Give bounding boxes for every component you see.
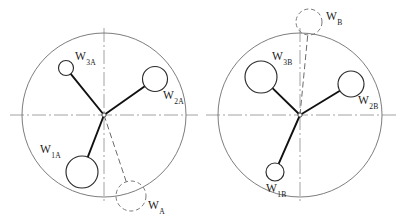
weight-label-2a: W2A xyxy=(163,89,184,104)
vector-arm-2b xyxy=(300,91,340,115)
weight-label-base: W xyxy=(75,50,86,62)
weight-label-3a: W3A xyxy=(75,50,96,65)
weight-label-subscript: B xyxy=(337,18,342,27)
resultant-arm-b xyxy=(300,35,308,115)
weight-label-subscript: A xyxy=(159,207,165,216)
weight-circle-2a xyxy=(143,67,168,92)
vector-arm-3a xyxy=(71,74,104,115)
weight-label-1b: W1B xyxy=(266,182,286,197)
diagram-geometry xyxy=(10,9,396,211)
vector-diagram-canvas xyxy=(0,0,404,224)
weight-label-subscript: 3B xyxy=(283,58,292,67)
weight-label-subscript: 2B xyxy=(369,102,378,111)
weight-label-subscript: 1A xyxy=(51,151,60,160)
weight-circle-1a xyxy=(66,156,98,188)
resultant-weight-circle-b xyxy=(296,9,322,35)
weight-circle-3b xyxy=(245,61,277,93)
weight-label-a: WA xyxy=(148,199,165,214)
hub-center-marker xyxy=(298,113,302,117)
weight-label-2b: W2B xyxy=(358,94,378,109)
weight-label-subscript: 2A xyxy=(174,97,183,106)
weight-label-subscript: 3A xyxy=(86,58,95,67)
resultant-weight-circle-a xyxy=(116,181,146,211)
weight-label-subscript: 1B xyxy=(277,190,286,199)
weight-label-base: W xyxy=(266,182,277,194)
weight-circle-3a xyxy=(59,61,74,76)
weight-label-base: W xyxy=(272,50,283,62)
weight-label-3b: W3B xyxy=(272,50,292,65)
vector-arm-1b xyxy=(279,115,300,164)
weight-label-base: W xyxy=(40,143,51,155)
weight-label-base: W xyxy=(163,89,174,101)
weight-circle-1b xyxy=(266,163,284,181)
weight-label-base: W xyxy=(326,10,337,22)
vector-arm-3b xyxy=(272,88,300,115)
weight-label-base: W xyxy=(358,94,369,106)
hub-center-marker xyxy=(102,113,106,117)
weight-label-base: W xyxy=(148,199,159,211)
vector-arm-1a xyxy=(88,115,104,157)
rotor-diagram-a xyxy=(10,28,198,211)
weight-label-b: WB xyxy=(326,10,342,25)
vector-arm-2a xyxy=(104,86,145,115)
figure-root: W1AW2AW3AWAW1BW2BW3BWB xyxy=(0,0,404,224)
resultant-arm-a xyxy=(104,115,126,182)
weight-label-1a: W1A xyxy=(40,143,61,158)
